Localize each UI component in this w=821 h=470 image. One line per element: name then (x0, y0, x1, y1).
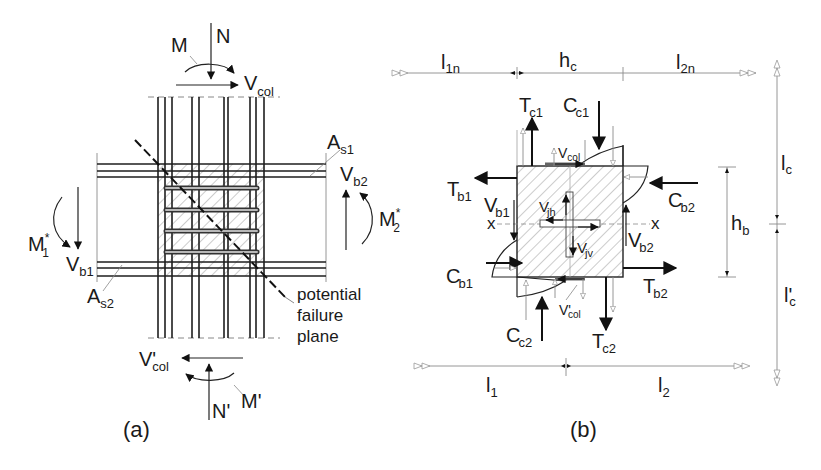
dim-label-l2: l2 (658, 374, 670, 400)
dim-label-hb: hb (731, 212, 749, 238)
label-shear-vcol-prime: V'col (139, 348, 169, 374)
label-vb2: Vb2 (628, 229, 654, 255)
steel-as2-leader (103, 265, 122, 291)
beam-moment-m2-arrow (360, 193, 372, 244)
label-vcol-prime: V'col (559, 302, 581, 320)
label-shear-vcol: Vcol (244, 72, 274, 99)
dim-label-lc: lc (781, 152, 792, 177)
label-failure-plane-3: plane (297, 327, 339, 346)
moment-m-prime-arrow (186, 373, 234, 380)
panel-a: M N Vcol As1 Vb2 M*2 M*1 Vb1 As2 potenti… (28, 23, 401, 442)
dim-arrow-lc-bottom (774, 370, 780, 386)
label-steel-as2: As2 (87, 285, 114, 311)
panel-b: l1n hc l2n lc l'c hb l1 l2 x x (392, 49, 796, 442)
label-moment-m: M (171, 34, 188, 56)
axis-label-x-right: x (651, 214, 660, 233)
failure-plane-leader (285, 297, 294, 303)
label-beam-shear-vb1: Vb1 (66, 253, 94, 279)
joint-diagram: M N Vcol As1 Vb2 M*2 M*1 Vb1 As2 potenti… (0, 0, 821, 470)
vcol-prime-leader (566, 285, 577, 300)
beam-moment-m1-arrow (54, 197, 70, 247)
dim-label-lc-prime: l'c (784, 284, 796, 309)
label-axial-n: N (216, 25, 230, 47)
dim-arrow-top-left (392, 70, 408, 76)
dim-label-l2n: l2n (676, 51, 695, 76)
label-tb2: Tb2 (643, 275, 668, 301)
dim-label-l1n: l1n (441, 51, 460, 76)
dim-arrow-bottom-left (414, 363, 430, 369)
joint-shear-horizontal-band (540, 220, 600, 227)
dim-label-l1: l1 (486, 374, 498, 400)
label-cb1: Cb1 (446, 265, 473, 291)
label-beam-moment-m2: M*2 (379, 206, 401, 235)
dim-arrow-top-right (740, 70, 756, 76)
label-cc1: Cc1 (563, 94, 589, 120)
label-beam-moment-m1: M*1 (28, 231, 50, 260)
dim-arrow-bottom-right (734, 363, 750, 369)
label-axial-n-prime: N' (212, 400, 230, 422)
label-cb2: Cb2 (668, 189, 695, 215)
label-tb1: Tb1 (447, 178, 472, 204)
label-beam-shear-vb2: Vb2 (340, 163, 368, 189)
compression-block-right (623, 166, 648, 203)
label-failure-plane-2: failure (297, 306, 343, 325)
moment-m-arrow (185, 64, 234, 73)
steel-as1-leader (310, 150, 340, 176)
dim-label-hc: hc (559, 49, 577, 74)
label-tc1: Tc1 (519, 94, 543, 120)
label-steel-as1: As1 (327, 131, 354, 157)
label-failure-plane-1: potential (297, 285, 361, 304)
compression-block-left (492, 240, 517, 277)
caption-a: (a) (123, 417, 150, 442)
label-tc2: Tc2 (592, 330, 616, 356)
caption-b: (b) (570, 417, 597, 442)
label-vcol: Vcol (558, 145, 580, 163)
dim-arrow-lc-top (774, 60, 780, 76)
label-moment-m-prime: M' (241, 390, 261, 412)
label-cc2: Cc2 (506, 324, 532, 350)
moment-m-leader (190, 56, 197, 64)
